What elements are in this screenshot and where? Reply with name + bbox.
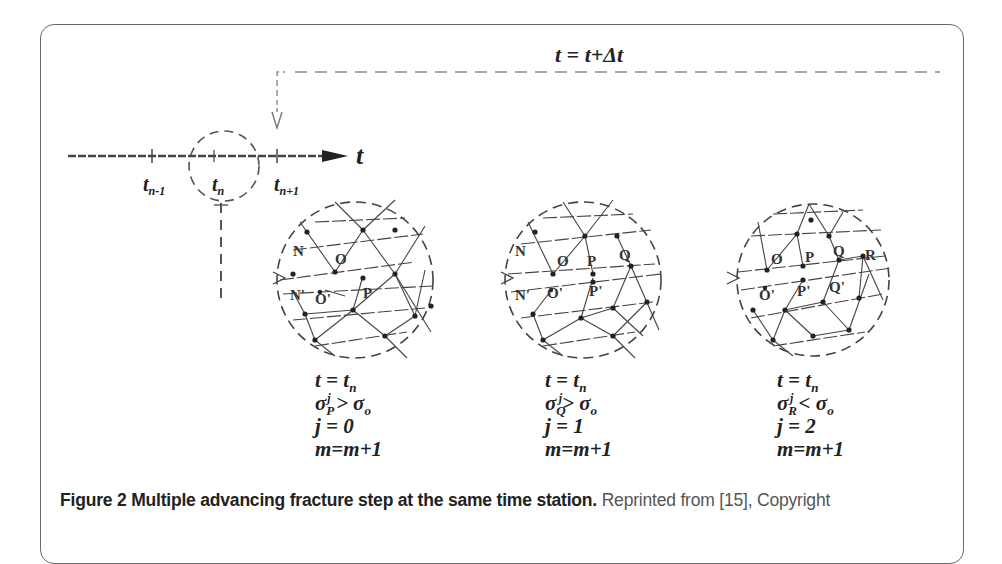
time-step-label: t = t+Δt (555, 42, 624, 67)
figure-caption: Figure 2 Multiple advancing fracture ste… (60, 490, 830, 511)
axis-label: t (356, 141, 364, 170)
svg-text:Q: Q (619, 247, 631, 263)
mesh-panel-3: O P Q R O' P' Q' (727, 204, 891, 356)
axis-arrow-icon (322, 150, 348, 162)
m-equation: m=m+1 (315, 438, 382, 461)
svg-text:O': O' (315, 291, 331, 307)
tick-label-n: tn (212, 173, 225, 198)
stress-condition: σPj > σo (315, 392, 382, 415)
svg-text:P: P (587, 253, 596, 269)
m-equation: m=m+1 (777, 438, 844, 461)
caption-credit: Reprinted from [15], Copyright (597, 490, 830, 510)
time-axis: t (68, 141, 364, 170)
svg-text:P: P (363, 285, 372, 301)
svg-text:N: N (293, 243, 304, 259)
stress-condition: σRj < σo (777, 392, 844, 415)
svg-text:N': N' (515, 287, 530, 303)
time-equation: t = tn (545, 369, 612, 392)
time-equation: t = tn (777, 369, 844, 392)
j-equation: j = 2 (777, 415, 844, 438)
j-equation: j = 1 (545, 415, 612, 438)
svg-text:N: N (515, 243, 526, 259)
svg-text:N': N' (290, 287, 305, 303)
conditions-panel-3: t = tn σRj < σo j = 2 m=m+1 (777, 369, 844, 461)
svg-text:P': P' (589, 283, 602, 299)
svg-text:O': O' (547, 285, 563, 301)
svg-text:O: O (335, 251, 347, 267)
svg-text:Q: Q (833, 243, 845, 259)
svg-text:Q': Q' (829, 279, 845, 295)
svg-text:O: O (557, 253, 569, 269)
mesh-panel-2: N O P Q N' O' P' (501, 200, 661, 358)
mesh-panel-1: N O N' O' P (273, 200, 434, 358)
svg-text:O': O' (759, 287, 775, 303)
conditions-panel-1: t = tn σPj > σo j = 0 m=m+1 (315, 369, 382, 461)
tick-label-n-plus-1: tn+1 (274, 173, 299, 198)
svg-text:P: P (805, 249, 814, 265)
caption-title: Figure 2 Multiple advancing fracture ste… (60, 490, 597, 510)
j-equation: j = 0 (315, 415, 382, 438)
stress-condition: σQj> σo (545, 392, 612, 415)
time-step-connector (272, 72, 940, 128)
conditions-panel-2: t = tn σQj> σo j = 1 m=m+1 (545, 369, 612, 461)
m-equation: m=m+1 (545, 438, 612, 461)
time-equation: t = tn (315, 369, 382, 392)
tick-label-n-minus-1: tn-1 (143, 173, 165, 198)
axis-tick-labels: tn-1 tn tn+1 (143, 173, 299, 198)
svg-text:P': P' (797, 283, 810, 299)
svg-text:R: R (865, 247, 876, 263)
svg-text:O: O (771, 251, 783, 267)
